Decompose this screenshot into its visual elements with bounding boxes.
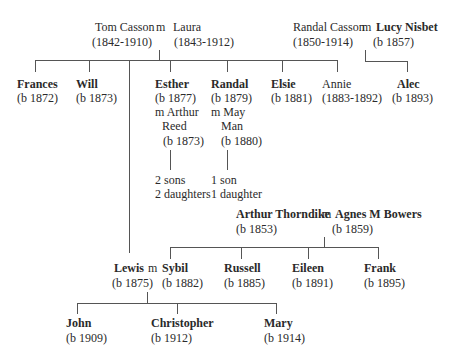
randal-spouse-dates: (b 1880) [221,134,262,148]
eileen-name: Eileen [292,261,324,275]
lewis-name: Lewis [114,261,144,275]
frank-name: Frank [364,261,396,275]
child-tick [170,60,171,72]
randal-spouse-surname: Man [221,119,243,133]
child-tick [276,303,277,314]
tom-casson-dates: (1842-1910) [92,35,152,49]
child-tick [227,60,228,72]
will-name: Will [76,77,98,91]
esther-dates: (b 1877) [155,91,196,105]
alec-name: Alec [397,77,420,91]
frances-name: Frances [17,77,58,91]
randal-spouse: m May [211,105,245,119]
sibling-line [365,61,408,62]
arthur-thorndike-name: Arthur Thorndike [236,207,330,221]
randal-issue-son: 1 son [211,173,237,187]
sybil-name: Sybil [162,261,188,275]
eileen-dates: (b 1891) [292,276,333,290]
john-dates: (b 1909) [66,331,107,345]
elsie-name: Elsie [271,77,296,91]
esther-issue-sons: 2 sons [155,173,185,187]
child-tick [241,247,242,259]
esther-spouse-dates: (b 1873) [163,134,204,148]
child-tick [170,247,171,259]
mary-dates: (b 1914) [264,331,305,345]
agnes-bowers-dates: (b 1859) [332,222,373,236]
laura-dates: (1843-1912) [174,35,234,49]
annie-name: Annie [322,77,351,91]
arthur-thorndike-dates: (b 1853) [236,222,277,236]
christopher-name: Christopher [151,316,214,330]
child-tick [337,60,338,72]
esther-issue-daughters: 2 daughters [155,187,211,201]
christopher-dates: (b 1912) [151,331,192,345]
marriage-label: m [322,207,331,221]
esther-spouse-surname: Reed [162,119,187,133]
john-name: John [66,316,91,330]
sibling-line [35,60,337,61]
child-tick [177,303,178,314]
sybil-dates: (b 1882) [162,276,203,290]
laura-name: Laura [173,20,201,34]
randal-dates: (b 1879) [211,91,252,105]
russell-name: Russell [224,261,261,275]
esther-spouse: m Arthur [155,105,199,119]
randal-name: Randal [211,77,248,91]
lucy-nisbet-dates: (b 1857) [373,35,414,49]
alec-dates: (b 1893) [392,91,433,105]
frances-dates: (b 1872) [17,91,58,105]
marriage-label: m [156,20,165,34]
randal-casson-name: Randal Casson [293,20,365,34]
russell-dates: (b 1885) [224,276,265,290]
descent-line [147,292,148,303]
marriage-label: m [362,20,371,34]
child-tick [89,60,90,72]
esther-name: Esther [155,77,189,91]
elsie-dates: (b 1881) [271,91,312,105]
frank-dates: (b 1895) [364,276,405,290]
child-tick [378,247,379,259]
annie-dates: (1883-1892) [322,91,382,105]
issue-line [227,150,228,170]
child-tick [407,61,408,72]
child-tick [35,60,36,72]
child-tick [308,247,309,259]
child-tick [77,303,78,314]
issue-line [170,150,171,170]
agnes-bowers-name: Agnes M Bowers [335,207,422,221]
lewis-dates: (b 1875) [112,276,153,290]
lewis-descent-line [129,60,130,253]
will-dates: (b 1873) [76,91,117,105]
child-tick [282,60,283,72]
sibling-line [170,247,379,248]
marriage-label: m [148,261,157,275]
randal-casson-dates: (1850-1914) [293,35,353,49]
mary-name: Mary [264,316,293,330]
tom-casson-name: Tom Casson [95,20,155,34]
randal-issue-daughter: 1 daughter [211,187,262,201]
lucy-nisbet-name: Lucy Nisbet [376,20,438,34]
